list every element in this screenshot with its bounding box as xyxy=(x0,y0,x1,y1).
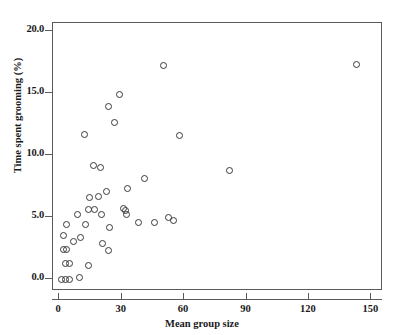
x-axis-line xyxy=(52,299,382,300)
y-tick-label: 5.0 xyxy=(0,209,44,220)
data-point xyxy=(99,240,106,247)
data-point xyxy=(85,262,92,269)
x-tick-label: 120 xyxy=(288,303,328,314)
data-point xyxy=(91,206,98,213)
data-point xyxy=(141,175,148,182)
scatter-points-layer xyxy=(53,23,381,289)
data-point xyxy=(103,188,110,195)
data-point xyxy=(124,185,131,192)
x-tick-mark xyxy=(183,293,184,299)
x-tick-label: 60 xyxy=(163,303,203,314)
chart-page: Time spent grooming (%) 0.05.010.015.020… xyxy=(0,0,404,335)
x-tick-mark xyxy=(370,293,371,299)
y-tick-label: 0.0 xyxy=(0,271,44,282)
y-tick-mark xyxy=(45,92,52,93)
data-point xyxy=(105,247,112,254)
x-tick-label: 30 xyxy=(101,303,141,314)
data-point xyxy=(76,274,83,281)
data-point xyxy=(105,103,112,110)
data-point xyxy=(86,194,93,201)
data-point xyxy=(151,219,158,226)
y-tick-mark xyxy=(45,154,52,155)
x-tick-mark xyxy=(246,293,247,299)
x-tick-label: 0 xyxy=(38,303,78,314)
data-point xyxy=(106,224,113,231)
y-tick-label: 15.0 xyxy=(0,85,44,96)
y-tick-mark xyxy=(45,30,52,31)
data-point xyxy=(82,221,89,228)
data-point xyxy=(116,91,123,98)
data-point xyxy=(176,132,183,139)
y-axis-label: Time spent grooming (%) xyxy=(12,0,23,241)
data-point xyxy=(81,131,88,138)
data-point xyxy=(70,238,77,245)
plot-frame xyxy=(52,22,382,290)
x-axis-label: Mean group size xyxy=(0,318,404,329)
data-point xyxy=(226,167,233,174)
data-point xyxy=(353,61,360,68)
data-point xyxy=(160,62,167,69)
x-tick-label: 150 xyxy=(350,303,390,314)
data-point xyxy=(111,119,118,126)
data-point xyxy=(97,164,104,171)
y-tick-mark xyxy=(45,278,52,279)
data-point xyxy=(170,217,177,224)
data-point xyxy=(135,219,142,226)
x-tick-mark xyxy=(121,293,122,299)
data-point xyxy=(66,260,73,267)
data-point xyxy=(123,211,130,218)
data-point xyxy=(95,193,102,200)
data-point xyxy=(77,234,84,241)
y-tick-label: 20.0 xyxy=(0,23,44,34)
data-point xyxy=(98,211,105,218)
data-point xyxy=(63,221,70,228)
data-point xyxy=(74,211,81,218)
y-tick-mark xyxy=(45,216,52,217)
x-tick-label: 90 xyxy=(226,303,266,314)
data-point xyxy=(90,162,97,169)
y-tick-label: 10.0 xyxy=(0,147,44,158)
data-point xyxy=(66,276,73,283)
x-tick-mark xyxy=(308,293,309,299)
data-point xyxy=(60,232,67,239)
x-tick-mark xyxy=(58,293,59,299)
data-point xyxy=(63,246,70,253)
